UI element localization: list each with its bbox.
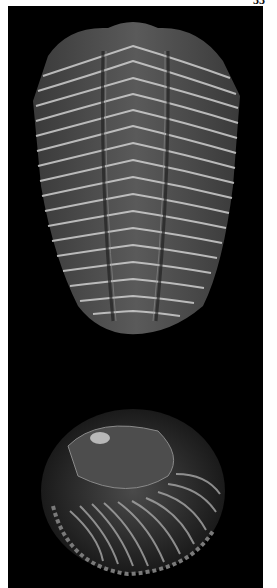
- photo-plate: [8, 6, 263, 588]
- trilobite-dorsal-photo: [8, 6, 263, 588]
- trilobite-enrolled-photo: [41, 409, 225, 574]
